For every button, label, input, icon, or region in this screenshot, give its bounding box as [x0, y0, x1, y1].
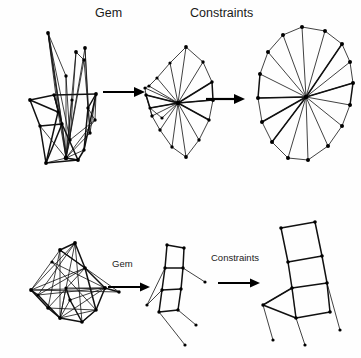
top-gem-arrow	[103, 87, 145, 97]
top-gem-label: Gem	[95, 6, 122, 20]
node-group	[145, 243, 206, 346]
top-stage-2-gem-layout	[143, 45, 215, 159]
bottom-stage-1-tangled-graph	[29, 241, 121, 324]
edge-bundle-ladder-legs	[147, 268, 205, 345]
edge-bundle-ladder-rails	[159, 245, 184, 312]
node-group	[143, 45, 215, 159]
node-group	[29, 241, 121, 324]
bottom-constraints-arrow	[218, 279, 260, 288]
figure-canvas	[0, 0, 361, 358]
bottom-stage-3-constrained-ladder	[261, 220, 341, 346]
bottom-gem-label: Gem	[112, 258, 133, 269]
bottom-constraints-label: Constraints	[211, 252, 259, 263]
bottom-stage-2-gem-layout	[145, 243, 206, 346]
node-group	[261, 220, 341, 346]
top-constraints-label: Constraints	[190, 6, 253, 20]
edge-bundle-long-spokes	[40, 33, 96, 163]
top-constraints-arrow	[206, 94, 245, 104]
top-stage-3-constrained-wheel	[256, 25, 355, 162]
top-stage-1-tangled-graph	[28, 31, 98, 165]
figure-root: Gem Constraints Gem Constraints	[0, 0, 361, 358]
edge-bundle-ladder-rails	[263, 222, 330, 318]
